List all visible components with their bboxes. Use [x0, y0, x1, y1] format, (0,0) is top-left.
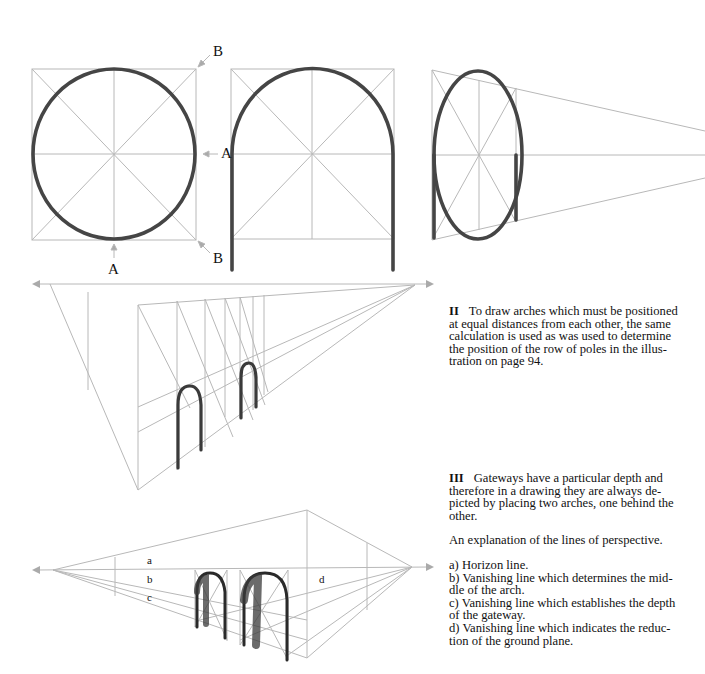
label-A-bottom: A [108, 261, 119, 278]
label-B-top: B [213, 43, 223, 60]
label-A-right: A [221, 145, 232, 162]
section-iii-paragraph: IIIGateways have a particular depth and … [449, 472, 705, 522]
legend-a: a) Horizon line. [449, 559, 705, 572]
section-ii-paragraph: IITo draw arches which must be positione… [449, 305, 705, 368]
perspective-legend: a) Horizon line. b) Vanishing line which… [449, 559, 705, 647]
label-c: c [147, 591, 152, 603]
label-B-bottom: B [213, 250, 223, 267]
section-ii-numeral: II [449, 304, 459, 318]
legend-d: d) Vanishing line which indicates the re… [449, 622, 705, 635]
label-a: a [147, 554, 152, 566]
section-iii-numeral: III [449, 471, 464, 485]
label-d: d [319, 573, 325, 585]
label-b: b [147, 573, 153, 585]
explanation-heading: An explanation of the lines of perspecti… [449, 534, 705, 547]
